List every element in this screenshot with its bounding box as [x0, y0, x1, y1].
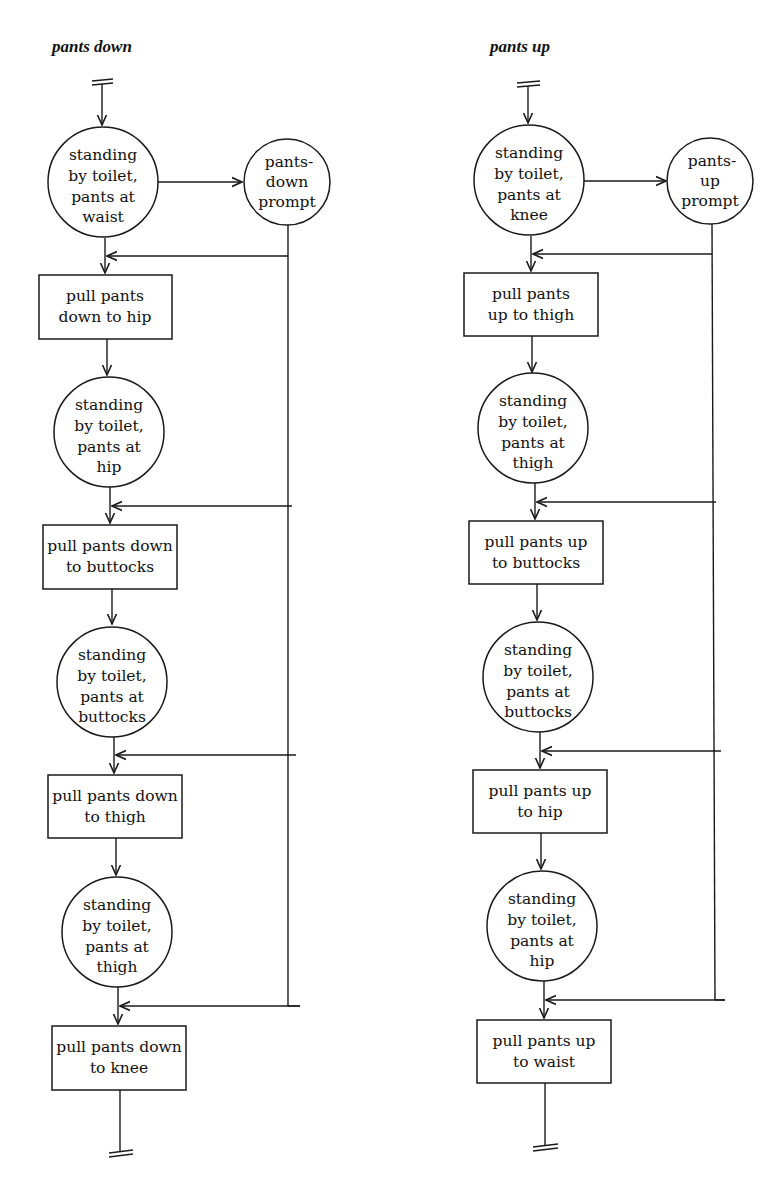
svg-text:by toilet,: by toilet,: [507, 911, 576, 929]
svg-text:to knee: to knee: [90, 1059, 148, 1077]
svg-text:by toilet,: by toilet,: [77, 667, 146, 685]
svg-text:to waist: to waist: [513, 1053, 576, 1071]
svg-text:down: down: [266, 173, 309, 191]
state-node: standing by toilet, pants at thigh: [62, 877, 172, 987]
svg-text:pants at: pants at: [497, 186, 561, 204]
state-node-start: standing by toilet, pants at waist: [48, 127, 158, 237]
diagram-pants-up: pants up standing by toilet, pants at kn…: [464, 37, 753, 1151]
svg-text:pull pants up: pull pants up: [493, 1032, 596, 1050]
prompt-node: pants- down prompt: [244, 139, 330, 225]
svg-text:pull pants up: pull pants up: [485, 533, 588, 551]
state-node: standing by toilet, pants at buttocks: [57, 627, 167, 737]
action-node: pull pants up to thigh: [464, 273, 598, 336]
action-node-final: pull pants down to knee: [52, 1026, 186, 1090]
action-node: pull pants down to buttocks: [43, 525, 177, 589]
action-node-final: pull pants up to waist: [477, 1020, 611, 1083]
diagram-title: pants up: [488, 37, 550, 56]
svg-text:waist: waist: [82, 208, 124, 226]
diagram-title: pants down: [50, 37, 132, 56]
svg-text:pull pants: pull pants: [66, 287, 144, 305]
svg-text:pants at: pants at: [501, 434, 565, 452]
svg-text:up: up: [700, 172, 720, 190]
action-node: pull pants down to thigh: [48, 775, 182, 838]
svg-text:standing: standing: [499, 392, 567, 410]
svg-text:pants at: pants at: [71, 188, 135, 206]
svg-text:pull pants down: pull pants down: [52, 787, 178, 805]
state-node: standing by toilet, pants at buttocks: [483, 622, 593, 732]
svg-text:pull pants: pull pants: [492, 285, 570, 303]
svg-text:to buttocks: to buttocks: [492, 554, 580, 572]
svg-text:by toilet,: by toilet,: [494, 165, 563, 183]
svg-text:pull pants down: pull pants down: [47, 537, 173, 555]
svg-text:up to thigh: up to thigh: [488, 306, 574, 324]
state-node: standing by toilet, pants at thigh: [478, 373, 588, 483]
svg-text:by toilet,: by toilet,: [68, 167, 137, 185]
svg-text:thigh: thigh: [512, 454, 553, 472]
action-node: pull pants up to buttocks: [469, 521, 603, 584]
svg-text:pants-: pants-: [688, 152, 737, 170]
svg-text:buttocks: buttocks: [504, 703, 572, 721]
state-node: standing by toilet, pants at hip: [487, 871, 597, 981]
svg-text:pants at: pants at: [506, 683, 570, 701]
svg-text:by toilet,: by toilet,: [498, 413, 567, 431]
state-node-start: standing by toilet, pants at knee: [474, 125, 584, 235]
end-terminal-icon: [109, 1150, 133, 1157]
svg-text:to buttocks: to buttocks: [66, 558, 154, 576]
svg-text:by toilet,: by toilet,: [74, 417, 143, 435]
svg-text:pull pants down: pull pants down: [56, 1038, 182, 1056]
svg-text:standing: standing: [69, 146, 137, 164]
state-node: standing by toilet, pants at hip: [54, 377, 164, 487]
prompt-node: pants- up prompt: [667, 138, 753, 224]
svg-text:buttocks: buttocks: [78, 708, 146, 726]
prompt-feedback-line: [712, 224, 715, 1000]
svg-text:pull pants up: pull pants up: [489, 782, 592, 800]
svg-text:to hip: to hip: [517, 803, 562, 821]
svg-text:down to hip: down to hip: [59, 308, 152, 326]
svg-text:pants-: pants-: [265, 153, 314, 171]
svg-text:pants at: pants at: [85, 938, 149, 956]
svg-text:hip: hip: [97, 458, 122, 476]
svg-text:standing: standing: [504, 641, 572, 659]
action-node: pull pants up to hip: [473, 770, 607, 833]
svg-text:pants at: pants at: [510, 932, 574, 950]
svg-text:hip: hip: [530, 952, 555, 970]
diagram-pants-down: pants down standing by toilet, pants at …: [39, 37, 330, 1157]
svg-text:standing: standing: [83, 896, 151, 914]
svg-text:standing: standing: [508, 890, 576, 908]
svg-text:knee: knee: [510, 206, 548, 224]
svg-text:thigh: thigh: [96, 958, 137, 976]
end-terminal-icon: [533, 1144, 558, 1151]
svg-text:prompt: prompt: [258, 193, 316, 211]
action-node: pull pants down to hip: [39, 275, 172, 339]
svg-text:standing: standing: [495, 144, 563, 162]
flowchart-canvas: pants down standing by toilet, pants at …: [0, 0, 778, 1193]
svg-text:by toilet,: by toilet,: [82, 917, 151, 935]
svg-text:standing: standing: [75, 396, 143, 414]
svg-text:pants at: pants at: [77, 438, 141, 456]
svg-text:by toilet,: by toilet,: [503, 662, 572, 680]
svg-text:prompt: prompt: [681, 192, 739, 210]
svg-text:to thigh: to thigh: [84, 808, 146, 826]
svg-text:standing: standing: [78, 646, 146, 664]
svg-text:pants at: pants at: [80, 688, 144, 706]
